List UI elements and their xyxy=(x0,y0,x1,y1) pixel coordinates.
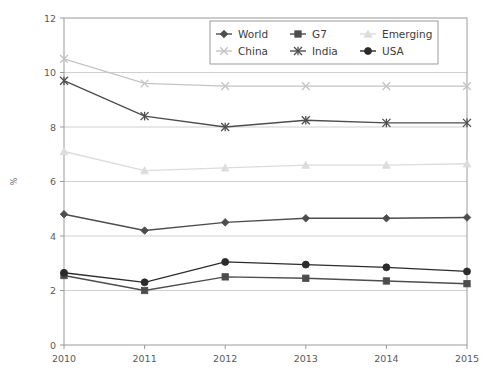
y-tick-label: 8 xyxy=(50,122,56,133)
series-world xyxy=(60,210,471,234)
x-tick-label: 2014 xyxy=(374,353,398,364)
line-chart: 024681012 201020112012201320142015 % Wor… xyxy=(0,0,485,380)
x-tick-label: 2013 xyxy=(294,353,318,364)
y-tick-label: 4 xyxy=(50,231,56,242)
data-series xyxy=(60,55,471,294)
y-axis-title: % xyxy=(10,177,19,185)
legend-label: India xyxy=(312,45,338,57)
legend-label: USA xyxy=(382,45,405,57)
x-axis-ticks: 201020112012201320142015 xyxy=(52,345,479,364)
y-axis-ticks: 024681012 xyxy=(44,13,64,351)
y-tick-label: 2 xyxy=(50,285,56,296)
x-tick-label: 2010 xyxy=(52,353,76,364)
y-tick-label: 10 xyxy=(44,67,56,78)
x-tick-label: 2015 xyxy=(455,353,479,364)
y-tick-label: 12 xyxy=(44,13,56,24)
x-tick-label: 2011 xyxy=(133,353,157,364)
gridlines xyxy=(64,73,467,291)
legend-label: Emerging xyxy=(382,28,432,40)
series-india xyxy=(60,76,471,131)
series-emerging xyxy=(60,148,471,174)
chart-canvas: 024681012 201020112012201320142015 % Wor… xyxy=(0,0,485,380)
legend-label: China xyxy=(238,45,268,57)
y-tick-label: 0 xyxy=(50,340,56,351)
chart-legend: WorldG7EmergingChinaIndiaUSA xyxy=(210,21,438,64)
legend-label: World xyxy=(238,28,268,40)
legend-label: G7 xyxy=(312,28,327,40)
x-tick-label: 2012 xyxy=(213,353,237,364)
y-tick-label: 6 xyxy=(50,176,56,187)
